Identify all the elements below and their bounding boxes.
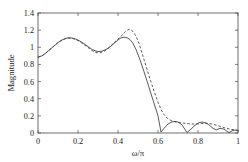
x-axis-label: ω/π [132,148,145,158]
y-tick-label: 0.4 [24,95,34,104]
x-tick-label: 0.4 [113,137,123,146]
y-tick-label: 0 [30,129,34,138]
x-tick-label: 0.2 [73,137,83,146]
plot-axes-frame [38,13,238,133]
series-line-solid [38,37,238,132]
y-tick-label: 1.4 [24,9,34,18]
x-axis-tick-labels: 00.20.40.60.81 [36,137,240,146]
x-tick-label: 0.8 [193,137,203,146]
y-axis-ticks [38,13,238,133]
y-tick-label: 1 [30,43,34,52]
y-tick-label: 0.8 [24,60,34,69]
y-axis-tick-labels: 00.20.40.60.811.21.4 [24,9,34,138]
x-axis-ticks [38,13,238,133]
y-tick-label: 0.6 [24,78,34,87]
x-tick-label: 1 [236,137,240,146]
magnitude-response-chart: 00.20.40.60.81 00.20.40.60.811.21.4 ω/π … [0,0,248,162]
data-series-group [38,29,238,132]
x-tick-label: 0 [36,137,40,146]
y-axis-label: Magnitude [6,54,16,91]
x-tick-label: 0.6 [153,137,163,146]
figure-container: 00.20.40.60.81 00.20.40.60.811.21.4 ω/π … [0,0,248,162]
plot-frame [38,13,238,133]
y-tick-label: 1.2 [24,26,34,35]
series-line-dashed [38,29,238,130]
y-tick-label: 0.2 [24,112,34,121]
